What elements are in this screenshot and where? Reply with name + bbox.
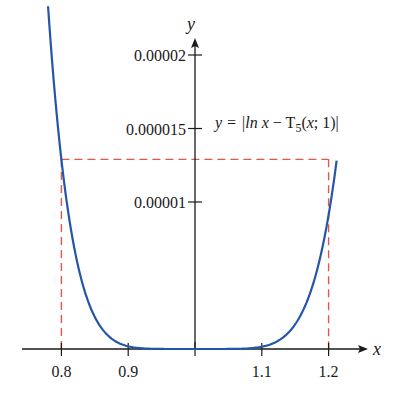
- error-curve: [48, 6, 337, 349]
- y-tick-label: 0.00002: [134, 47, 186, 64]
- curve-equation-label: y = |ln x − T5(x; 1)|: [213, 114, 339, 135]
- x-tick-label: 1.1: [252, 363, 272, 380]
- y-ticks: 0.000010.0000150.00002: [126, 47, 202, 211]
- x-tick-label: 0.9: [118, 363, 138, 380]
- x-axis-label: x: [372, 339, 381, 359]
- y-axis-label: y: [185, 14, 195, 34]
- x-ticks: 0.80.91.11.2: [51, 342, 338, 380]
- y-axis: [191, 38, 199, 349]
- y-tick-label: 0.000015: [126, 121, 186, 138]
- x-tick-label: 0.8: [51, 363, 71, 380]
- error-plot: 0.80.91.11.2 0.000010.0000150.00002 x y …: [0, 0, 405, 397]
- y-tick-label: 0.00001: [134, 194, 186, 211]
- x-tick-label: 1.2: [319, 363, 339, 380]
